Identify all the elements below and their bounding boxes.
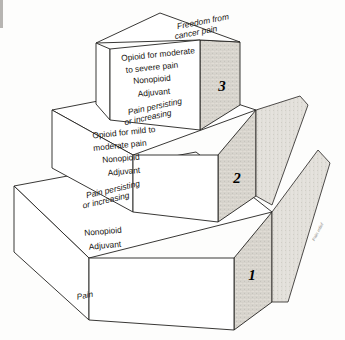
step-1-front-face-right <box>89 258 234 330</box>
step-3-numeral: 3 <box>217 78 226 94</box>
step-1-numeral: 1 <box>248 267 256 283</box>
scan-edge-artifact <box>0 0 3 28</box>
analgesic-ladder-diagram: Freedom from cancer pain Opioid for mode… <box>0 0 345 340</box>
step-2-numeral: 2 <box>232 170 241 186</box>
step-2-front-face-right <box>133 155 218 222</box>
edge-faint-caption: Pain relief <box>311 221 325 241</box>
ladder-svg: Freedom from cancer pain Opioid for mode… <box>0 0 345 340</box>
